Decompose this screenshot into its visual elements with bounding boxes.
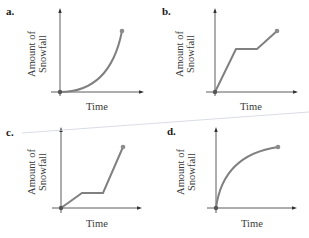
end-point-marker bbox=[276, 145, 281, 150]
plot-area-d bbox=[155, 119, 309, 238]
y-axis-arrow-icon bbox=[58, 8, 61, 13]
snowfall-curve-d bbox=[216, 147, 278, 208]
end-point-marker bbox=[121, 145, 126, 150]
snowfall-curve-b bbox=[215, 31, 277, 92]
snowfall-curve-c bbox=[61, 147, 123, 208]
end-point-marker bbox=[275, 29, 280, 34]
start-point-marker bbox=[214, 206, 218, 210]
x-axis-arrow-icon bbox=[139, 90, 144, 93]
graph-panel-d: d. Amount of Snowfall Time bbox=[155, 119, 309, 238]
plot-area-c bbox=[0, 119, 155, 238]
plot-area-a bbox=[0, 0, 155, 119]
end-point-marker bbox=[120, 29, 125, 34]
snowfall-curve-a bbox=[60, 31, 122, 92]
y-axis-arrow-icon bbox=[59, 127, 62, 132]
start-point-marker bbox=[213, 90, 217, 94]
start-point-marker bbox=[59, 206, 63, 210]
x-axis-arrow-icon bbox=[292, 206, 297, 209]
plot-area-b bbox=[155, 0, 309, 119]
y-axis-arrow-icon bbox=[213, 8, 216, 13]
start-point-marker bbox=[58, 90, 62, 94]
graph-panel-a: a. Amount of Snowfall Time bbox=[0, 0, 155, 119]
x-axis-arrow-icon bbox=[293, 90, 298, 93]
graph-panel-c: c. Amount of Snowfall Time bbox=[0, 119, 155, 238]
x-axis-arrow-icon bbox=[137, 206, 142, 209]
graph-panel-b: b. Amount of Snowfall Time bbox=[155, 0, 309, 119]
y-axis-arrow-icon bbox=[214, 127, 217, 132]
